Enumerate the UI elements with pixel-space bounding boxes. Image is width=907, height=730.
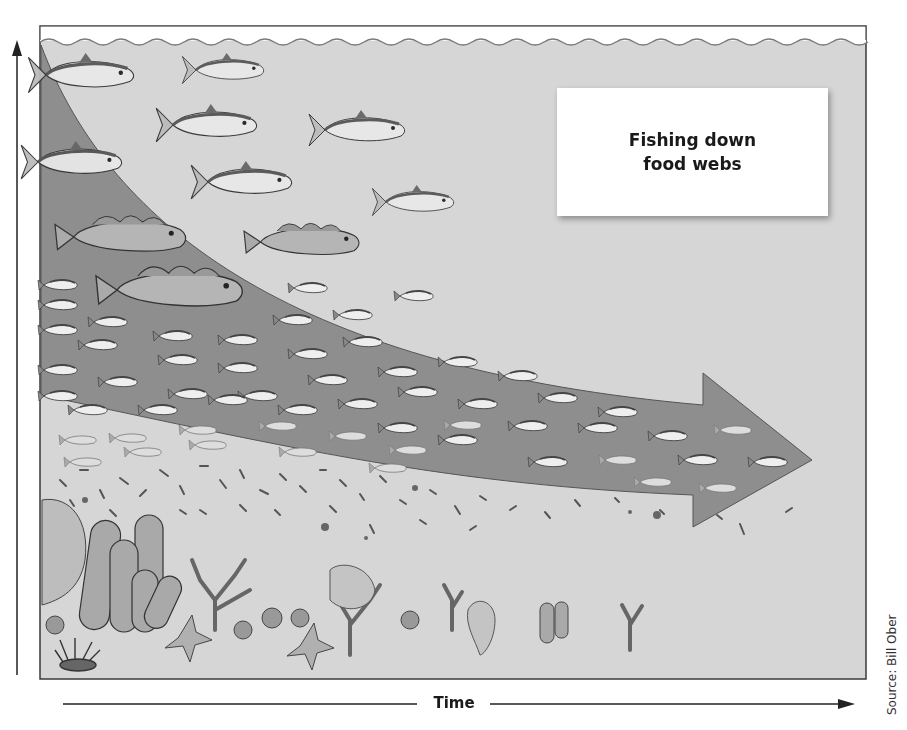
small-sponge-pair — [540, 602, 568, 643]
x-axis-arrowhead — [838, 699, 855, 709]
x-axis-label: Time — [424, 694, 484, 712]
title-box: Fishing down food webs — [557, 88, 828, 216]
figure: Fishing down food webs Time Source: Bill… — [0, 0, 907, 730]
y-axis-arrowhead — [12, 40, 22, 56]
title-line-2: food webs — [643, 152, 741, 176]
title-line-1: Fishing down — [629, 128, 756, 152]
source-credit: Source: Bill Ober — [885, 615, 899, 716]
